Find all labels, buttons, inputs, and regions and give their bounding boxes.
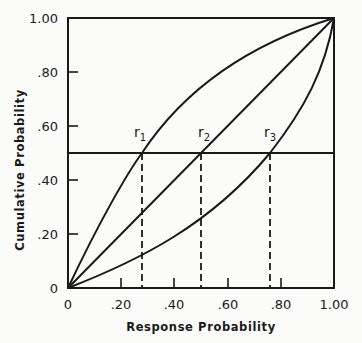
x-tick-80: .80 — [271, 297, 292, 312]
annotation-r1: r1 — [134, 124, 146, 143]
x-tick-0: 0 — [64, 297, 72, 312]
y-tick-80: .80 — [37, 65, 58, 80]
x-tick-100: 1.00 — [320, 297, 349, 312]
y-axis-label: Cumulative Probability — [13, 89, 27, 250]
y-tick-60: .60 — [37, 119, 58, 134]
x-tick-20: .20 — [111, 297, 132, 312]
x-axis-label: Response Probability — [126, 320, 276, 334]
y-tick-0: 0 — [50, 281, 58, 296]
annotation-r2: r2 — [198, 124, 210, 143]
y-tick-40: .40 — [37, 173, 58, 188]
x-tick-60: .60 — [218, 297, 239, 312]
y-tick-20: .20 — [37, 227, 58, 242]
y-tick-100: 1.00 — [29, 11, 58, 26]
x-tick-40: .40 — [164, 297, 185, 312]
annotation-r3: r3 — [264, 124, 276, 143]
chart: 0 .20 .40 .60 .80 1.00 0 .20 .40 .60 .80… — [0, 0, 362, 343]
